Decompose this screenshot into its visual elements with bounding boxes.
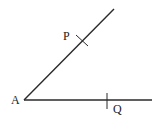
label-a: A [11,93,20,107]
ray-ap [24,9,114,100]
angle-diagram: P A Q [0,0,157,121]
label-p: P [63,29,70,43]
label-q: Q [113,102,122,116]
